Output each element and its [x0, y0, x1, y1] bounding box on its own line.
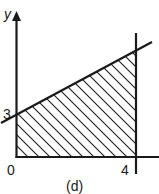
y-axis-label: y	[3, 6, 12, 22]
figure-caption: (d)	[66, 178, 83, 194]
y-axis-arrow-icon	[12, 11, 21, 21]
origin-label: 0	[7, 162, 15, 178]
x-tick-label: 4	[121, 162, 129, 178]
graph-figure: y 3 0 4 (d)	[0, 0, 159, 194]
y-tick-label: 3	[3, 106, 11, 122]
